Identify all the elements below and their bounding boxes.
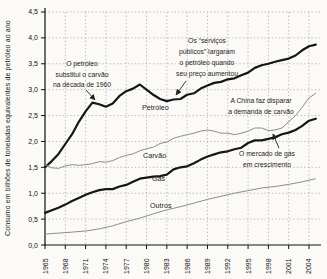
y-tick-label: 1,5: [28, 164, 38, 171]
x-tick-label: 2001: [285, 258, 292, 274]
annotation-text: o petróleo quando: [180, 59, 235, 67]
y-tick-label: 0,0: [28, 242, 38, 249]
annotation-oil-replaces-coal: O petróleosubstitui o carvãona década de…: [53, 60, 111, 100]
x-tick-label: 1965: [42, 258, 49, 274]
x-tick-label: 2004: [305, 258, 312, 274]
y-tick-label: 2,5: [28, 112, 38, 119]
annotation-china-coal-demand: A China faz disparara demanda de carvão: [228, 97, 294, 115]
energy-consumption-chart: Consumo em bilhões de toneladas equivale…: [0, 0, 327, 279]
x-tick-label: 1989: [204, 258, 211, 274]
annotation-text: em crescimento: [243, 161, 291, 168]
annotation-text: O mercado de gás: [239, 150, 296, 158]
x-tick-label: 1977: [123, 258, 130, 274]
x-tick-label: 1971: [82, 258, 89, 274]
annotation-text: O petróleo: [66, 60, 98, 68]
series-label-carvao: Carvão: [143, 151, 166, 160]
annotation-text: públicos” largaram: [179, 48, 235, 56]
annotation-arrow: [176, 81, 186, 95]
annotation-text: seu preço aumentou: [176, 70, 238, 78]
y-tick-label: 0,5: [28, 216, 38, 223]
y-tick-label: 2,0: [28, 138, 38, 145]
y-tick-label: 1,0: [28, 190, 38, 197]
x-tick-label: 1992: [224, 258, 231, 274]
y-tick-label: 3,5: [28, 60, 38, 67]
x-tick-label: 1983: [163, 258, 170, 274]
series-label-outros: Outros: [150, 201, 172, 210]
annotation-text: substitui o carvão: [56, 71, 109, 78]
x-tick-label: 1980: [143, 258, 150, 274]
x-tick-label: 1974: [102, 258, 109, 274]
annotation-text: na década de 1960: [53, 81, 111, 88]
annotation-text: A China faz disparar: [230, 97, 292, 105]
x-tick-label: 1998: [265, 258, 272, 274]
x-tick-label: 1986: [184, 258, 191, 274]
annotation-text: a demanda de carvão: [228, 108, 294, 115]
y-tick-label: 4,0: [28, 34, 38, 41]
annotation-arrow: [86, 90, 95, 100]
series-label-petroleo: Petróleo: [142, 103, 169, 112]
chart-canvas: 0,00,51,01,52,02,53,03,54,04,51965196819…: [0, 0, 327, 279]
x-tick-label: 1995: [245, 258, 252, 274]
series-label-gas: Gás: [152, 174, 166, 183]
x-tick-label: 1968: [62, 258, 69, 274]
y-tick-label: 4,5: [28, 8, 38, 15]
annotation-text: Os “serviços: [188, 37, 226, 45]
y-tick-label: 3,0: [28, 86, 38, 93]
